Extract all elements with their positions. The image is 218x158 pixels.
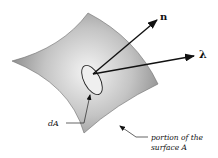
surface-label-line1: portion of the [151, 133, 204, 142]
direction-label: λ [199, 48, 207, 61]
surface-diagram: n λ dA portion of the surface A [0, 0, 218, 158]
surface-label-line2: surface A [151, 143, 188, 152]
area-element-label: dA [48, 119, 59, 128]
surface-leader [120, 126, 148, 137]
normal-label: n [160, 11, 168, 22]
